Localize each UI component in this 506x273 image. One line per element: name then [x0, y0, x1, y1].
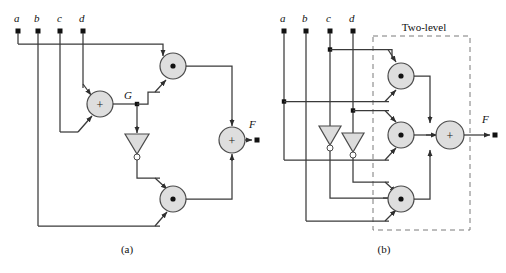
arrow-c-into-or — [78, 116, 92, 132]
input-terminal-b-b[interactable] — [304, 29, 309, 34]
output-terminal-f-a[interactable] — [255, 138, 260, 143]
wire-c-to-and1 — [330, 50, 392, 59]
arrow-b-into-and3 — [385, 210, 396, 221]
inverter-c[interactable] — [319, 126, 341, 145]
wire-inv-to-and-bottom — [137, 160, 160, 178]
and-gate-3-b-symbol — [398, 196, 403, 201]
input-terminal-b[interactable] — [36, 29, 41, 34]
input-terminal-c-b[interactable] — [328, 29, 333, 34]
figure-root: + G — [0, 0, 506, 273]
two-level-label: Two-level — [402, 21, 446, 33]
or-gate-output-a-symbol: + — [229, 134, 236, 148]
input-label-a-b: a — [280, 12, 286, 24]
output-label-f-b: F — [481, 113, 489, 125]
or-gate-output-b-symbol: + — [447, 129, 454, 143]
inverter-d-bubble — [350, 152, 356, 158]
input-label-c-b: c — [326, 12, 331, 24]
wire-and-top-to-or-out — [186, 66, 232, 124]
input-label-a: a — [14, 12, 20, 24]
inverter-g-bubble — [134, 154, 140, 160]
and-gate-1-b-symbol — [398, 73, 403, 78]
input-label-b-b: b — [302, 12, 308, 24]
wire-and1-to-or-b — [414, 76, 430, 121]
arrow-inv-into-and-bottom — [155, 178, 167, 189]
input-terminal-a-b[interactable] — [282, 29, 287, 34]
wire-invd-to-and3 — [353, 158, 389, 182]
inverter-d[interactable] — [342, 133, 364, 152]
panel-a: + G — [14, 12, 260, 256]
and-gate-2-b-symbol — [398, 132, 403, 137]
wire-a-to-and-top — [18, 44, 163, 54]
wire-g-to-and-top — [137, 92, 160, 104]
and-gate-top-symbol — [170, 63, 175, 68]
output-terminal-f-b[interactable] — [493, 133, 498, 138]
inverter-g[interactable] — [125, 134, 149, 154]
input-label-d: d — [79, 12, 85, 24]
input-terminal-a[interactable] — [16, 29, 21, 34]
input-terminal-c[interactable] — [58, 29, 63, 34]
wire-invc-to-and3 — [330, 151, 389, 198]
arrow-d-into-or — [83, 84, 91, 95]
arrow-g-into-and-top — [155, 80, 166, 92]
input-label-c: c — [57, 12, 62, 24]
panel-b: Two-level — [280, 12, 498, 256]
wire-and-bottom-to-or-out — [186, 156, 232, 199]
caption-b: (b) — [378, 243, 391, 256]
input-label-b: b — [34, 12, 40, 24]
inverter-c-bubble — [327, 145, 333, 151]
arrow-a-into-and1 — [385, 90, 396, 102]
and-gate-bottom-symbol — [170, 196, 175, 201]
input-terminal-d-b[interactable] — [351, 29, 356, 34]
input-terminal-d[interactable] — [81, 29, 86, 34]
circuit-figure: + G — [0, 0, 506, 273]
arrow-d-into-and2 — [385, 111, 396, 123]
wire-and3-to-or-b — [414, 152, 430, 199]
or-gate-g-symbol: + — [97, 98, 104, 112]
caption-a: (a) — [121, 243, 134, 256]
input-label-d-b: d — [349, 12, 355, 24]
output-label-f-a: F — [248, 118, 256, 130]
label-g: G — [124, 89, 132, 101]
arrow-a-into-and2 — [385, 148, 396, 160]
arrow-b-into-and-bottom — [155, 212, 167, 226]
